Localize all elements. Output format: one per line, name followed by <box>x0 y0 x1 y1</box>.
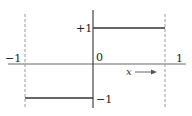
label-x-one: 1 <box>176 52 183 65</box>
label-x-minus-one: −1 <box>5 52 21 65</box>
step-function-diagram: −1 1 0 +1 −1 x <box>0 0 192 116</box>
x-direction-arrow-icon <box>151 70 157 75</box>
label-origin: 0 <box>96 51 103 64</box>
label-y-minus-one: −1 <box>96 93 112 106</box>
label-y-plus-one: +1 <box>76 22 92 35</box>
label-x-variable: x <box>126 66 132 77</box>
